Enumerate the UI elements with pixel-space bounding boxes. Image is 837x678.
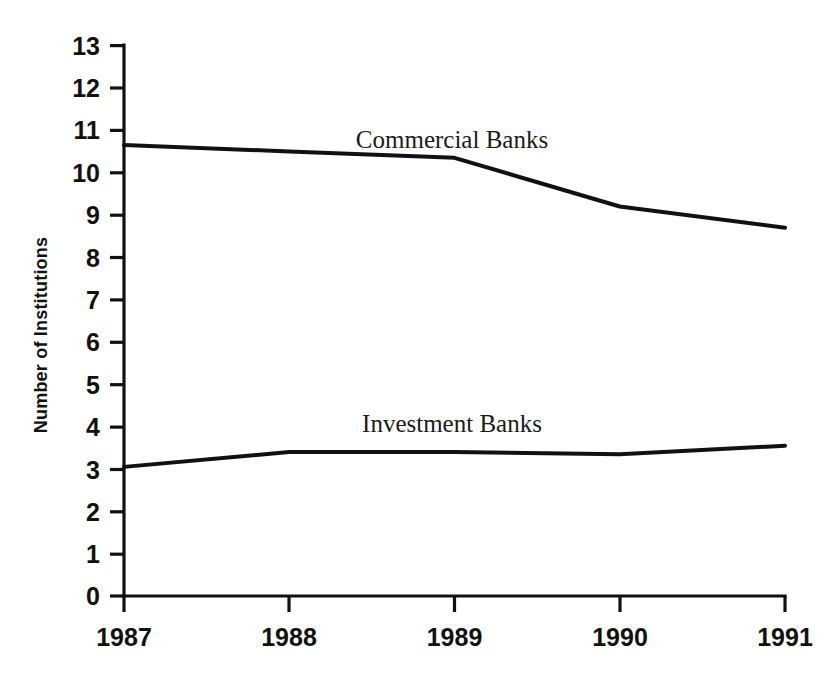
x-tick-label: 1987	[96, 623, 152, 651]
x-axis-ticks	[124, 596, 785, 612]
y-tick-label: 10	[72, 159, 100, 187]
y-tick-label: 11	[74, 116, 101, 144]
y-tick-label: 12	[72, 74, 100, 102]
investment-banks-line	[124, 446, 785, 467]
y-tick-label: 4	[86, 413, 100, 441]
x-tick-label: 1988	[261, 623, 317, 651]
y-tick-label: 0	[86, 582, 100, 610]
y-axis-ticks	[110, 46, 124, 596]
commercial-banks-line	[124, 145, 785, 228]
x-tick-label: 1990	[592, 623, 648, 651]
chart-canvas: 13 12 11 10 9 8 7 6 5 4 3 2 1 0 1987 198…	[0, 0, 837, 678]
x-tick-label: 1991	[757, 623, 813, 651]
y-tick-label: 1	[86, 540, 100, 568]
y-tick-label: 3	[86, 456, 100, 484]
y-tick-label: 6	[86, 328, 100, 356]
line-chart: 13 12 11 10 9 8 7 6 5 4 3 2 1 0 1987 198…	[0, 0, 837, 678]
y-tick-label: 5	[86, 371, 100, 399]
commercial-banks-label: Commercial Banks	[356, 126, 548, 153]
y-axis-tick-labels: 13 12 11 10 9 8 7 6 5 4 3 2 1 0	[72, 32, 100, 610]
y-tick-label: 2	[86, 498, 100, 526]
x-tick-label: 1989	[427, 623, 483, 651]
y-tick-label: 7	[86, 286, 100, 314]
y-tick-label: 8	[86, 244, 100, 272]
x-axis-tick-labels: 1987 1988 1989 1990 1991	[96, 623, 813, 651]
y-tick-label: 13	[72, 32, 100, 60]
investment-banks-label: Investment Banks	[362, 410, 542, 437]
y-tick-label: 9	[86, 201, 100, 229]
y-axis-title: Number of Institutions	[31, 237, 51, 433]
